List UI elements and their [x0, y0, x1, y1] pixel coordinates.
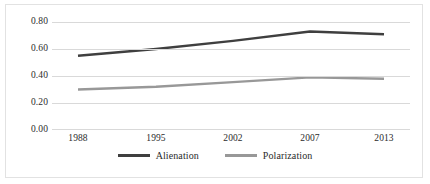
y-tick-label: 0.00 [4, 124, 48, 134]
x-tick-label: 2007 [300, 133, 319, 143]
x-tick-label: 1995 [146, 133, 165, 143]
gridline [52, 49, 410, 50]
legend-label: Alienation [156, 150, 199, 161]
y-tick-label: 0.20 [4, 97, 48, 107]
gridline [52, 22, 410, 23]
legend-line-swatch-icon [118, 154, 150, 157]
legend-label: Polarization [263, 150, 313, 161]
y-tick-label: 0.80 [4, 16, 48, 26]
gridline [52, 129, 410, 130]
x-tick-label: 1988 [68, 133, 87, 143]
y-axis: 0.80 0.60 0.40 0.20 0.00 [0, 22, 48, 130]
y-tick-label: 0.40 [4, 70, 48, 80]
legend-item-polarization: Polarization [225, 150, 313, 161]
legend-line-swatch-icon [225, 154, 257, 157]
series-line-alienation [78, 32, 384, 56]
series-line-polarization [78, 77, 384, 89]
gridline [52, 103, 410, 104]
line-chart-figure: 0.80 0.60 0.40 0.20 0.00 1988 1995 2002 … [0, 0, 430, 184]
gridline [52, 76, 410, 77]
x-axis: 1988 1995 2002 2007 2013 [52, 133, 410, 147]
x-tick-label: 2013 [374, 133, 393, 143]
plot-area [52, 22, 410, 130]
x-tick-label: 2002 [223, 133, 242, 143]
y-tick-label: 0.60 [4, 43, 48, 53]
chart-legend: Alienation Polarization [0, 150, 430, 161]
legend-item-alienation: Alienation [118, 150, 199, 161]
